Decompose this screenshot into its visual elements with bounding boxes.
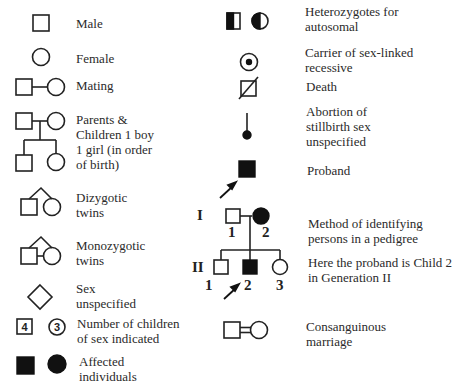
consanguineous-marriage-icon bbox=[224, 322, 268, 339]
generation-label-1: I bbox=[197, 207, 203, 224]
label-male: Male bbox=[76, 16, 103, 31]
dizygotic-twins-icon bbox=[21, 188, 61, 216]
mating-icon bbox=[16, 79, 65, 96]
monozygotic-twins-icon bbox=[21, 237, 61, 265]
label-monozygotic-twins: Monozygotic twins bbox=[76, 238, 145, 268]
gen2-number-3: 3 bbox=[276, 277, 284, 294]
label-proband-example: Here the proband is Child 2 in Generatio… bbox=[308, 255, 452, 285]
female-circle-icon bbox=[33, 49, 50, 66]
pedigree-symbols-legend: 4 3 I II 1 2 1 2 3 Male Female Mating Pa… bbox=[0, 0, 457, 390]
affected-male-icon bbox=[17, 357, 34, 374]
label-death: Death bbox=[306, 79, 337, 94]
gen1-number-2: 2 bbox=[262, 224, 270, 241]
label-number-of-children: Number of children of sex indicated bbox=[77, 316, 180, 346]
male-count-number: 4 bbox=[17, 319, 32, 334]
label-female: Female bbox=[76, 51, 114, 66]
affected-female-icon bbox=[48, 355, 66, 373]
label-parents-children: Parents & Children 1 boy 1 girl (in orde… bbox=[76, 112, 154, 172]
gen2-number-1: 1 bbox=[205, 277, 213, 294]
label-method: Method of identifying persons in a pedig… bbox=[308, 216, 423, 246]
female-count-number: 3 bbox=[49, 319, 65, 335]
label-carrier: Carrier of sex-linked recessive bbox=[305, 45, 413, 75]
generation-label-2: II bbox=[192, 259, 204, 276]
male-square-icon bbox=[33, 15, 49, 31]
proband-arrow-icon bbox=[220, 182, 236, 198]
label-mating: Mating bbox=[76, 78, 114, 93]
parents-children-icon bbox=[16, 113, 65, 172]
label-affected: Affected individuals bbox=[79, 354, 137, 384]
sex-unspecified-diamond-icon bbox=[28, 285, 52, 309]
label-consanguineous: Consanguinous marriage bbox=[306, 319, 386, 349]
label-proband: Proband bbox=[307, 163, 350, 178]
label-abortion: Abortion of stillbirth sex unspecified bbox=[306, 104, 371, 149]
gen2-number-2: 2 bbox=[244, 277, 252, 294]
gen1-number-1: 1 bbox=[228, 224, 236, 241]
proband-square-icon bbox=[239, 161, 255, 177]
label-sex-unspecified: Sex unspecified bbox=[76, 281, 136, 311]
pedigree-proband-arrow-icon bbox=[224, 284, 239, 299]
label-dizygotic-twins: Dizygotic twins bbox=[76, 190, 127, 220]
label-heterozygotes: Heterozygotes for autosomal bbox=[305, 4, 399, 34]
